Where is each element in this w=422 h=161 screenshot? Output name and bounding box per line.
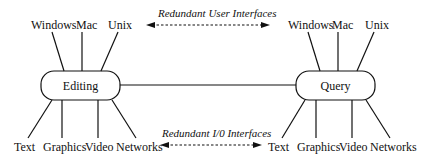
- right-bottom-label-text: Text: [268, 141, 289, 153]
- right-top-label-mac: Mac: [332, 19, 353, 31]
- left-bottom-label-networks: Networks: [116, 141, 163, 153]
- bottom-annotation: Redundant I/0 Interfaces: [162, 127, 271, 139]
- arrowhead-right-icon: [253, 142, 262, 148]
- top-annotation: Redundant User Interfaces: [158, 7, 277, 19]
- right-top-label-unix: Unix: [365, 19, 389, 31]
- arrowhead-left-icon: [146, 22, 155, 28]
- left-bottom-label-graphics: Graphics: [43, 141, 86, 153]
- left-top-label-mac: Mac: [76, 19, 97, 31]
- right-bottom-label-networks: Networks: [370, 141, 417, 153]
- right-top-label-windows: Windows: [288, 19, 334, 31]
- right-bottom-label-graphics: Graphics: [297, 141, 340, 153]
- left-top-label-unix: Unix: [108, 19, 132, 31]
- query-node-label: Query: [296, 80, 375, 92]
- right-bottom-label-video: Video: [339, 141, 368, 153]
- left-top-label-windows: Windows: [31, 19, 77, 31]
- left-bottom-label-text: Text: [14, 141, 35, 153]
- editing-node-label: Editing: [41, 80, 120, 92]
- arrowhead-right-icon: [261, 22, 270, 28]
- left-bottom-label-video: Video: [85, 141, 114, 153]
